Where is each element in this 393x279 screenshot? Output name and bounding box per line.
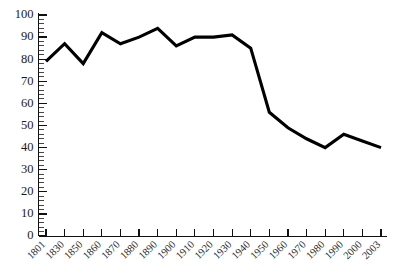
y-axis-tick-label: 20 — [21, 184, 34, 198]
y-axis-tick-label: 100 — [15, 7, 34, 21]
y-axis-tick-label: 0 — [27, 228, 33, 242]
y-axis-tick-label: 70 — [21, 74, 34, 88]
y-axis-tick-label: 90 — [21, 29, 34, 43]
y-axis-tick-label: 50 — [21, 118, 34, 132]
y-axis-tick-label: 30 — [21, 162, 34, 176]
y-axis-tick-label: 40 — [21, 140, 34, 154]
y-axis-tick-label: 60 — [21, 96, 34, 110]
line-chart: 0102030405060708090100 18011830185018601… — [0, 0, 393, 279]
chart-container: 0102030405060708090100 18011830185018601… — [0, 0, 393, 279]
y-axis-tick-label: 80 — [21, 52, 34, 66]
y-axis-tick-label: 10 — [21, 206, 34, 220]
